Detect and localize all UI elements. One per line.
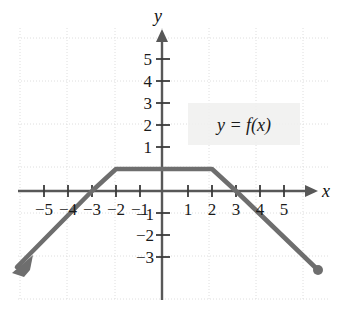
y-axis-arrowhead [156,29,168,42]
y-tick-label: 2 [144,116,153,135]
coordinate-plane: −5 −4 −3 −2 −1 1 2 3 4 5 5 4 3 2 1 −1 −2… [0,0,340,309]
y-tick-label: 3 [144,94,153,113]
y-tick-label: 4 [144,72,153,91]
x-axis-label: x [321,181,330,201]
x-tick-label: 1 [184,200,193,219]
x-tick-label: 2 [208,200,217,219]
y-tick-label: −2 [136,226,154,245]
y-tick-label: −1 [136,205,154,224]
y-axis-label: y [152,6,162,26]
function-endpoint-dot [313,265,323,275]
x-tick-label: 3 [232,200,241,219]
y-tick-label: −3 [136,248,154,267]
x-tick-label: −4 [59,200,78,219]
function-polyline [17,169,318,270]
y-tick-labels: 5 4 3 2 1 −1 −2 −3 [136,50,154,267]
x-axis-arrowhead [305,185,318,197]
x-tick-label: −3 [83,200,101,219]
function-annotation: y = f(x) [215,115,271,136]
function-graph-figure: −5 −4 −3 −2 −1 1 2 3 4 5 5 4 3 2 1 −1 −2… [0,0,340,309]
x-tick-label: 4 [256,200,265,219]
x-tick-label: −5 [35,200,53,219]
y-tick-label: 1 [144,138,153,157]
function-curve [12,169,323,277]
grid-lines [18,28,330,300]
x-axis [18,185,318,197]
y-axis [156,29,168,300]
y-tick-label: 5 [144,50,153,69]
x-tick-label: 5 [280,200,289,219]
x-tick-label: −2 [107,200,125,219]
